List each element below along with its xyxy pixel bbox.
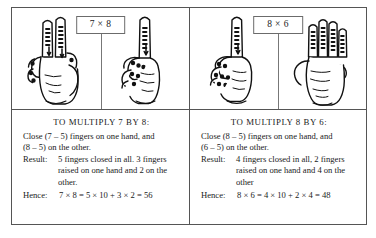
figure-frame: 7 × 8 xyxy=(11,7,367,225)
caption-line1-7x8: Close (7 – 5) fingers on one hand, and xyxy=(23,131,180,143)
caption-title-8x6: TO MULTIPLY 8 BY 6: xyxy=(201,117,357,129)
caption-line2-7x8: (8 – 5) on the other. xyxy=(23,142,180,154)
caption-result-line2-8x6: raised on one hand and 4 on the xyxy=(201,165,357,177)
caption-hence-value-8x6: 8 × 6 = 4 × 10 + 2 × 4 = 48 xyxy=(237,190,357,202)
caption-result-line2-7x8: raised on one hand and 2 on the xyxy=(23,165,180,177)
caption-title-7x8: TO MULTIPLY 7 BY 8: xyxy=(23,117,180,129)
label-chip-7x8: 7 × 8 xyxy=(76,16,126,34)
caption-result-line1-8x6: 4 fingers closed in all, 2 fingers xyxy=(236,154,357,166)
caption-result-key-8x6: Result: xyxy=(201,154,236,166)
caption-hence-row-7x8: Hence: 7 × 8 = 5 × 10 + 3 × 2 = 56 xyxy=(23,190,180,202)
hands-strip-8x6: 8 × 6 xyxy=(190,8,366,110)
caption-line1-8x6: Close (8 – 5) fingers on one hand, and xyxy=(201,131,357,143)
panel-7x8: 7 × 8 xyxy=(12,8,189,224)
hands-strip-7x8: 7 × 8 xyxy=(12,8,189,110)
label-chip-8x6: 8 × 6 xyxy=(253,16,303,34)
caption-result-row-7x8: Result: 5 fingers closed in all. 3 finge… xyxy=(23,154,180,166)
caption-result-row-8x6: Result: 4 fingers closed in all, 2 finge… xyxy=(201,154,357,166)
caption-line2-8x6: (6 – 5) on the other. xyxy=(201,142,357,154)
caption-hence-key-7x8: Hence: xyxy=(23,190,59,202)
caption-result-line3-7x8: other. xyxy=(23,177,180,189)
caption-hence-row-8x6: Hence: 8 × 6 = 4 × 10 + 2 × 4 = 48 xyxy=(201,190,357,202)
panel-8x6: 8 × 6 xyxy=(189,8,366,224)
caption-result-line3-8x6: other xyxy=(201,177,357,189)
caption-result-line1-7x8: 5 fingers closed in all. 3 fingers xyxy=(58,154,180,166)
caption-hence-key-8x6: Hence: xyxy=(201,190,237,202)
caption-8x6: TO MULTIPLY 8 BY 6: Close (8 – 5) finger… xyxy=(190,110,366,224)
caption-7x8: TO MULTIPLY 7 BY 8: Close (7 – 5) finger… xyxy=(12,110,189,224)
caption-result-key-7x8: Result: xyxy=(23,154,58,166)
caption-hence-value-7x8: 7 × 8 = 5 × 10 + 3 × 2 = 56 xyxy=(59,190,180,202)
